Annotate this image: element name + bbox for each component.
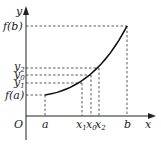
x2-label: x2 [95,118,106,132]
dashed-guides [26,26,127,116]
origin-label: O [14,118,23,131]
fa-label: f(a) [4,89,24,102]
fb-label: f(b) [2,20,23,33]
y-axis-arrow-icon [23,6,29,15]
a-label: a [42,118,49,131]
b-label: b [124,118,131,131]
y-axis-label: y [15,5,23,18]
x-axis-label: x [145,118,152,131]
graph-svg: y f(b) y2 y0 y1 f(a) O a x1 x0 x2 b x [0,0,161,147]
function-graph-diagram: y f(b) y2 y0 y1 f(a) O a x1 x0 x2 b x [0,0,161,147]
function-curve [45,26,127,95]
